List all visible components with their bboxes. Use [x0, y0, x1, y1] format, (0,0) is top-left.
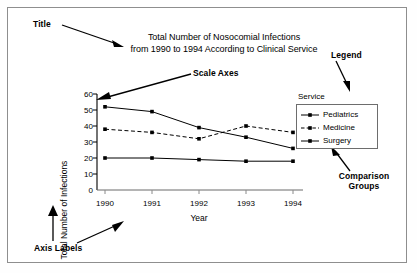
y-axis-label: Total Number of Infections [59, 161, 69, 260]
annotation-title: Title [33, 19, 51, 29]
plot-area: Total Number of Infections 60 50 40 30 2… [57, 92, 307, 222]
data-point [197, 158, 201, 162]
x-tick-1992: 1992 [190, 199, 208, 208]
series-layer [103, 105, 295, 163]
data-point [103, 127, 107, 131]
data-point [103, 105, 107, 109]
data-point [150, 156, 154, 160]
y-tick-50: 50 [84, 106, 93, 115]
legend-box[interactable]: PediatricsMedicineSurgery [296, 104, 378, 149]
data-point [244, 135, 248, 139]
chart-title-line-2: from 1990 to 1994 According to Clinical … [113, 44, 335, 56]
y-tick-40: 40 [84, 122, 93, 131]
data-point [291, 131, 295, 135]
x-tick-1991: 1991 [143, 199, 161, 208]
legend-label: Medicine [323, 123, 355, 132]
x-tick-1993: 1993 [237, 199, 255, 208]
x-tick-1990: 1990 [96, 199, 114, 208]
data-point [291, 147, 295, 151]
y-tick-20: 20 [84, 154, 93, 163]
legend-swatch-dashed-line-icon [300, 123, 320, 133]
figure-frame: Title Total Number of Nosocomial Infecti… [7, 7, 407, 263]
y-tick-30: 30 [84, 138, 93, 147]
chart-title-line-1: Total Number of Nosocomial Infections [113, 32, 335, 44]
legend-item-pediatrics[interactable]: Pediatrics [300, 108, 377, 121]
legend-rows: PediatricsMedicineSurgery [297, 105, 377, 147]
legend-heading: Service [298, 92, 325, 101]
annotation-scale-axes: Scale Axes [193, 68, 239, 78]
series-pediatrics [103, 105, 295, 150]
data-point [244, 159, 248, 163]
annotation-legend: Legend [331, 50, 362, 60]
annotation-legend-arrow [335, 60, 357, 93]
series-surgery [103, 156, 295, 163]
y-tick-0: 0 [89, 186, 94, 195]
legend-swatch-solid-line-icon [300, 136, 320, 146]
legend-item-medicine[interactable]: Medicine [300, 121, 377, 134]
legend-label: Surgery [323, 136, 351, 145]
data-point [150, 131, 154, 135]
x-tick-1994: 1994 [284, 199, 302, 208]
data-point [197, 137, 201, 141]
legend-item-surgery[interactable]: Surgery [300, 134, 377, 147]
legend-label: Pediatrics [323, 110, 358, 119]
data-point [291, 159, 295, 163]
y-tick-60: 60 [84, 90, 93, 99]
x-axis-label: Year [190, 213, 207, 223]
annotation-comparison-groups: Comparison Groups [328, 171, 400, 191]
annotation-comparison-groups-arrow [330, 146, 354, 173]
data-point [197, 126, 201, 130]
chart-title: Total Number of Nosocomial Infections fr… [113, 32, 335, 55]
legend-swatch-solid-line-icon [300, 110, 320, 120]
y-tick-10: 10 [84, 170, 93, 179]
data-point [244, 124, 248, 128]
data-point [150, 110, 154, 114]
annotation-comparison-groups-line-2: Groups [328, 181, 400, 191]
figure-page: Title Total Number of Nosocomial Infecti… [0, 0, 417, 273]
annotation-axis-labels-arrow-x [76, 219, 126, 245]
data-point [103, 156, 107, 160]
